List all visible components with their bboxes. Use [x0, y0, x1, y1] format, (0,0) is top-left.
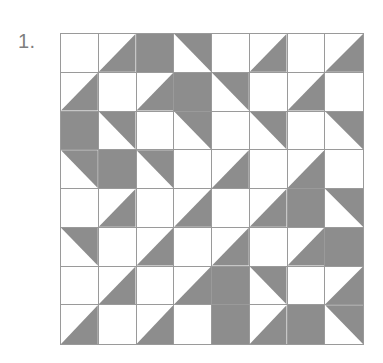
grid-cell — [137, 189, 175, 228]
cell-shading — [288, 267, 325, 305]
grid-cell — [212, 34, 250, 73]
cell-shading — [61, 267, 98, 305]
cell-shading — [137, 267, 174, 305]
cell-shading — [61, 34, 98, 72]
cell-shading — [174, 305, 211, 344]
grid-cell — [174, 189, 212, 228]
cell-shading — [61, 228, 98, 266]
cell-shading — [212, 228, 249, 266]
grid-cell — [288, 150, 326, 189]
grid-cell — [250, 189, 288, 228]
grid-cell — [61, 267, 99, 306]
cell-shading — [61, 305, 98, 344]
grid-cell — [61, 228, 99, 267]
grid-cell — [174, 228, 212, 267]
cell-shading — [250, 150, 287, 188]
cell-shading — [137, 150, 174, 188]
cell-shading — [212, 305, 249, 344]
cell-shading — [250, 112, 287, 150]
cell-shading — [174, 189, 211, 227]
grid-cell — [212, 73, 250, 112]
grid-cell — [61, 189, 99, 228]
grid-cell — [137, 112, 175, 151]
cell-shading — [288, 305, 325, 344]
cell-shading — [325, 189, 363, 227]
cell-shading — [99, 267, 136, 305]
cell-shading — [212, 150, 249, 188]
cell-shading — [325, 112, 363, 150]
grid-cell — [99, 112, 137, 151]
grid-cell — [61, 34, 99, 73]
grid-cell — [61, 305, 99, 344]
cell-shading — [325, 34, 363, 72]
grid-cell — [174, 112, 212, 151]
cell-shading — [212, 267, 249, 305]
cell-shading — [288, 228, 325, 266]
cell-shading — [99, 150, 136, 188]
grid-cell — [250, 267, 288, 306]
grid-cell — [137, 150, 175, 189]
grid-cell — [325, 228, 363, 267]
grid-cell — [137, 73, 175, 112]
grid-cell — [325, 305, 363, 344]
cell-shading — [99, 228, 136, 266]
cell-shading — [325, 73, 363, 111]
item-number-label: 1. — [18, 30, 36, 53]
cell-shading — [212, 112, 249, 150]
grid-cell — [250, 112, 288, 151]
cell-shading — [174, 73, 211, 111]
cell-shading — [212, 34, 249, 72]
grid-cell — [325, 189, 363, 228]
grid-cell — [288, 305, 326, 344]
grid-cell — [137, 228, 175, 267]
cell-shading — [288, 189, 325, 227]
grid-cell — [288, 228, 326, 267]
cell-shading — [137, 189, 174, 227]
cell-shading — [288, 34, 325, 72]
worksheet-page: 1. — [0, 0, 383, 363]
grid-cell — [250, 34, 288, 73]
cell-shading — [174, 34, 211, 72]
cell-shading — [250, 73, 287, 111]
grid-cell — [212, 112, 250, 151]
grid-cell — [99, 267, 137, 306]
grid-cell — [250, 73, 288, 112]
grid-cell — [212, 228, 250, 267]
grid-cell — [250, 305, 288, 344]
grid-cell — [61, 112, 99, 151]
cell-shading — [61, 150, 98, 188]
grid-cell — [99, 228, 137, 267]
grid-cell — [61, 150, 99, 189]
cell-shading — [325, 267, 363, 305]
grid-cell — [99, 34, 137, 73]
grid-cell — [174, 150, 212, 189]
cell-shading — [250, 189, 287, 227]
grid-cell — [99, 150, 137, 189]
figure-container — [60, 33, 364, 345]
grid-cell — [137, 34, 175, 73]
cell-shading — [137, 305, 174, 344]
cell-shading — [174, 228, 211, 266]
cell-shading — [61, 73, 98, 111]
cell-shading — [174, 267, 211, 305]
grid-cell — [212, 150, 250, 189]
grid-cell — [174, 305, 212, 344]
cell-shading — [250, 34, 287, 72]
cell-shading — [99, 112, 136, 150]
grid-cell — [174, 267, 212, 306]
grid-cell — [174, 73, 212, 112]
grid-cell — [288, 112, 326, 151]
cell-shading — [61, 112, 98, 150]
cell-shading — [325, 150, 363, 188]
cell-shading — [99, 189, 136, 227]
grid-cell — [288, 73, 326, 112]
grid-cell — [250, 228, 288, 267]
grid-cell — [99, 305, 137, 344]
cell-shading — [137, 112, 174, 150]
grid-cell — [250, 150, 288, 189]
cell-shading — [250, 228, 287, 266]
cell-shading — [174, 150, 211, 188]
grid-cell — [99, 73, 137, 112]
grid-cell — [61, 73, 99, 112]
grid-cell — [137, 305, 175, 344]
